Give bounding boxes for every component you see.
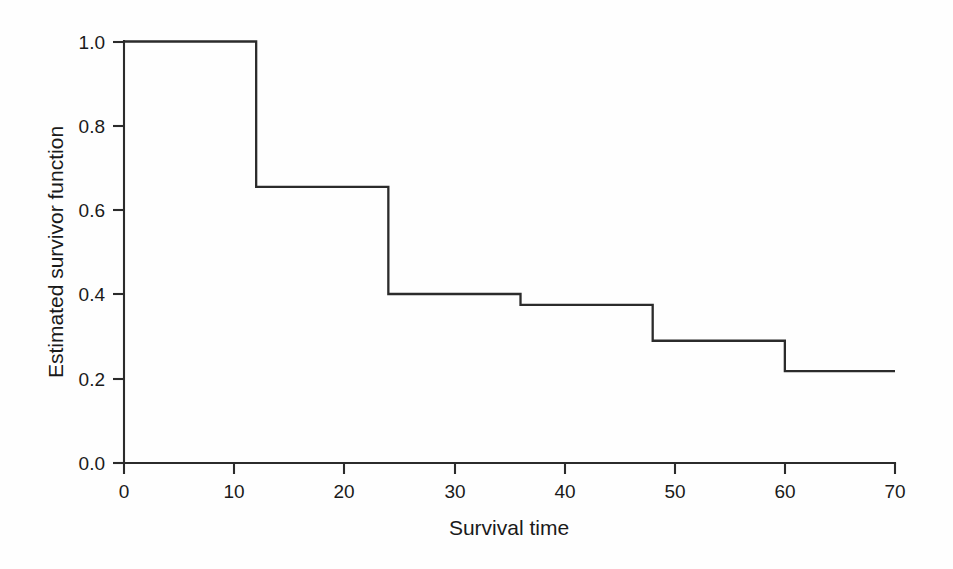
x-tick-label-60: 60 bbox=[774, 481, 795, 502]
y-axis-title: Estimated survivor function bbox=[44, 126, 67, 378]
survival-step-curve bbox=[124, 42, 895, 372]
x-tick-label-0: 0 bbox=[119, 481, 130, 502]
y-tick-label-1.0: 1.0 bbox=[79, 32, 105, 53]
y-tick-label-0.8: 0.8 bbox=[79, 116, 105, 137]
x-axis-title: Survival time bbox=[449, 516, 569, 539]
x-tick-label-70: 70 bbox=[884, 481, 905, 502]
x-tick-label-40: 40 bbox=[554, 481, 575, 502]
chart-canvas: 1.0 0.8 0.6 0.4 0.2 0.0 0 10 20 30 40 50 bbox=[0, 0, 953, 569]
axes-group bbox=[124, 41, 895, 463]
x-axis-tick-labels: 0 10 20 30 40 50 60 70 bbox=[119, 481, 906, 502]
y-tick-label-0.6: 0.6 bbox=[79, 200, 105, 221]
y-tick-label-0.2: 0.2 bbox=[79, 369, 105, 390]
x-axis-ticks bbox=[124, 463, 895, 474]
x-tick-label-10: 10 bbox=[223, 481, 244, 502]
y-axis-tick-labels: 1.0 0.8 0.6 0.4 0.2 0.0 bbox=[79, 32, 106, 474]
y-tick-label-0.4: 0.4 bbox=[79, 284, 106, 305]
x-tick-label-50: 50 bbox=[664, 481, 685, 502]
y-axis-ticks bbox=[113, 42, 124, 463]
y-tick-label-0.0: 0.0 bbox=[79, 453, 105, 474]
x-tick-label-30: 30 bbox=[444, 481, 465, 502]
x-tick-label-20: 20 bbox=[333, 481, 354, 502]
survival-plot-figure: 1.0 0.8 0.6 0.4 0.2 0.0 0 10 20 30 40 50 bbox=[0, 0, 953, 569]
